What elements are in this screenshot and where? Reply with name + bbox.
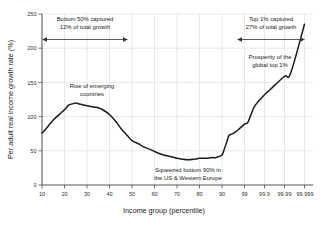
- x-tick-label: 60: [151, 191, 157, 197]
- annotation-line: Squeezed bottom 90% in: [155, 167, 221, 173]
- x-tick-label: 99: [241, 191, 247, 197]
- y-tick-label: 200: [27, 45, 36, 51]
- x-tick-label: 90: [219, 191, 225, 197]
- x-tick-label: 50: [129, 191, 135, 197]
- x-tick-label: 10: [39, 191, 45, 197]
- annotation-line: global top 1%: [252, 62, 288, 68]
- y-tick-label: 50: [30, 148, 36, 154]
- x-axis-title: Income group (percentile): [123, 206, 205, 215]
- annotation-line: 12% of total growth: [60, 24, 110, 30]
- y-tick-label: 100: [27, 114, 36, 120]
- annotation-line: the US & Western Europe: [154, 175, 222, 181]
- chart-canvas: 0 50 100 150 200 250 10 20 30 40 50 60 7…: [0, 0, 328, 231]
- x-tick-label: 20: [61, 191, 67, 197]
- x-tick-label: 80: [196, 191, 202, 197]
- x-tick-label: 30: [84, 191, 90, 197]
- annotation-line: countries: [80, 91, 104, 97]
- annotation-line: Bottom 50% captured: [57, 16, 114, 22]
- annotation-line: Top 1% captured: [249, 16, 293, 22]
- x-tick-label: 99.999: [296, 191, 313, 197]
- annotation-line: Prosperity of the: [249, 54, 293, 60]
- annotation-line: 27% of total growth: [246, 24, 296, 30]
- annotation-line: Rise of emerging: [70, 83, 115, 89]
- y-tick-label: 0: [33, 182, 36, 188]
- y-tick-label: 250: [27, 11, 36, 17]
- x-tick-label: 40: [106, 191, 112, 197]
- x-tick-label: 70: [174, 191, 180, 197]
- y-tick-label: 150: [27, 80, 36, 86]
- x-tick-label: 99.99: [278, 191, 292, 197]
- x-tick-label: 99.9: [259, 191, 270, 197]
- elephant-curve-chart: 0 50 100 150 200 250 10 20 30 40 50 60 7…: [0, 0, 328, 231]
- y-axis-title: Per adult real income growth rate (%): [6, 40, 15, 159]
